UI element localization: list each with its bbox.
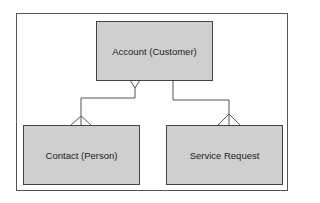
- connector-account-service: [173, 80, 229, 125]
- entity-service-request[interactable]: Service Request: [166, 125, 283, 185]
- entity-account[interactable]: Account (Customer): [96, 21, 213, 81]
- entity-contact[interactable]: Contact (Person): [23, 125, 140, 185]
- entity-account-label: Account (Customer): [112, 46, 196, 57]
- connector-account-contact: [81, 88, 135, 125]
- entity-service-request-label: Service Request: [190, 150, 260, 161]
- entity-contact-label: Contact (Person): [46, 150, 118, 161]
- crows-foot-account-contact: [130, 80, 140, 88]
